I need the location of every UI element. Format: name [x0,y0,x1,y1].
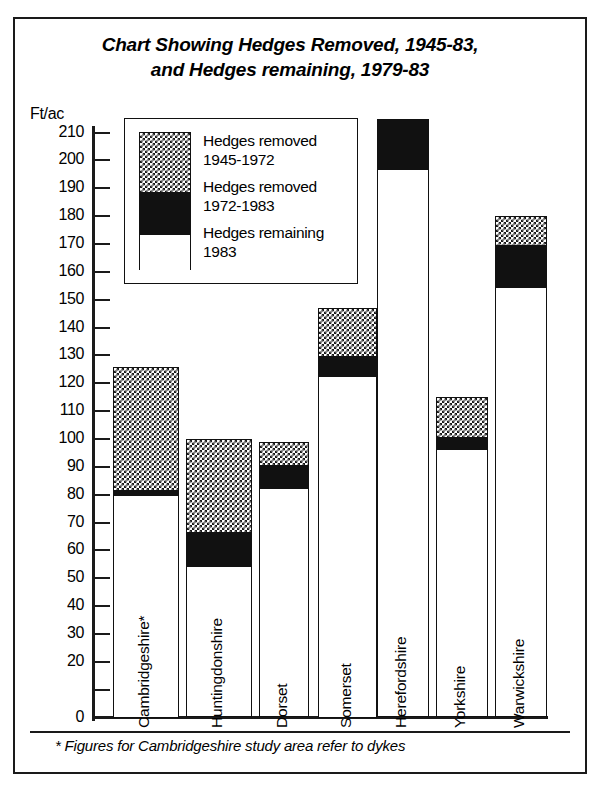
y-axis-tick [95,327,110,329]
y-axis-tick-label: 180 [28,206,84,224]
bar-somerset [318,308,377,718]
legend-label-line-1: Hedges removed [203,178,317,195]
chart-title-line-1: Chart Showing Hedges Removed, 1945-83, [102,34,479,55]
y-axis-tick [95,633,110,635]
y-axis-tick-label: 110 [28,401,84,419]
y-axis-tick [95,577,110,579]
y-axis-tick-label: 80 [28,485,84,503]
chart-title-line-2: and Hedges remaining, 1979-83 [40,57,540,82]
y-axis-tick-label: 210 [28,123,84,141]
y-axis-tick-label: 50 [28,568,84,586]
bar-herefordshire [377,119,429,718]
y-axis-tick [95,494,110,496]
x-axis-category-label: Herefordshire [392,636,410,727]
legend-swatch-column [139,132,191,270]
y-axis-tick [95,522,110,524]
y-axis-tick [95,382,110,384]
footnote-text: * Figures for Cambridgeshire study area … [55,737,555,754]
legend-label-line-1: Hedges remaining [203,224,324,241]
y-axis-tick [95,215,110,217]
legend-label-line-2: 1983 [203,243,236,260]
y-axis-tick [95,187,110,189]
bar-segment-removed-1945-1972 [187,440,251,532]
legend-swatch-checkered [140,133,190,192]
y-axis-tick [95,271,110,273]
legend-swatch-black [140,192,190,235]
y-axis-tick [95,299,110,301]
y-axis-tick [95,243,110,245]
y-axis-tick-label: 160 [28,262,84,280]
bar-dorset [259,442,309,718]
bar-segment-removed-1972-1983 [437,437,487,450]
y-axis-tick [95,438,110,440]
chart-page: Chart Showing Hedges Removed, 1945-83, a… [0,0,601,791]
bar-segment-removed-1972-1983 [378,120,428,170]
legend-label-removed-1972-1983: Hedges removed1972-1983 [203,177,353,215]
legend-label-line-1: Hedges removed [203,132,317,149]
y-axis-tick-label: 120 [28,373,84,391]
bar-segment-removed-1945-1972 [114,368,178,491]
y-axis-tick [95,689,110,691]
chart-title: Chart Showing Hedges Removed, 1945-83, a… [40,32,540,82]
legend-label-removed-1945-1972: Hedges removed1945-1972 [203,131,353,169]
chart-legend: Hedges removed1945-1972 Hedges removed19… [124,118,358,284]
y-axis-tick [95,410,110,412]
y-axis-tick-label: 0 [28,708,84,726]
y-axis-tick [95,549,110,551]
x-axis-category-label: Yorkshire [451,665,469,727]
bar-segment-removed-1972-1983 [187,532,251,567]
y-axis-tick [95,159,110,161]
legend-label-remaining-1983: Hedges remaining1983 [203,223,353,261]
x-axis-category-label: Somerset [337,663,355,728]
bar-segment-removed-1945-1972 [260,443,308,465]
legend-label-line-2: 1972-1983 [203,197,274,214]
legend-swatch-white [140,235,190,271]
y-axis-tick [95,354,110,356]
footnote-divider [30,731,570,733]
y-axis-tick-label: 40 [28,596,84,614]
legend-label-line-2: 1945-1972 [203,151,274,168]
y-axis-tick [95,717,110,719]
bar-segment-removed-1972-1983 [496,245,546,288]
y-axis-tick [95,466,110,468]
y-axis-tick-label: 150 [28,290,84,308]
x-axis-category-label: Cambridgeshire* [135,615,153,727]
y-axis-tick [95,132,110,134]
bar-segment-removed-1972-1983 [260,465,308,489]
y-axis-tick-label: 200 [28,150,84,168]
y-axis-tick-label: 100 [28,429,84,447]
y-axis-tick-label: 170 [28,234,84,252]
y-axis-tick-label: 60 [28,540,84,558]
y-axis-tick-label: 30 [28,624,84,642]
bar-segment-removed-1945-1972 [319,309,376,356]
bar-segment-removed-1945-1972 [437,398,487,437]
x-axis-category-label: Huntingdonshire [208,618,226,728]
bar-segment-removed-1972-1983 [319,356,376,377]
bar-segment-remaining-1983 [260,489,308,717]
y-axis-tick [95,605,110,607]
y-axis-tick-label: 20 [28,652,84,670]
y-axis-tick [95,661,110,663]
y-axis-tick-label: 190 [28,178,84,196]
bar-segment-removed-1945-1972 [496,217,546,245]
x-axis-category-label: Dorset [273,683,291,727]
y-axis-tick-label: 70 [28,513,84,531]
y-axis-tick-label: 140 [28,318,84,336]
y-axis-unit-label: Ft/ac [30,105,64,123]
bar-segment-remaining-1983 [378,170,428,717]
y-axis-tick-label: 130 [28,345,84,363]
y-axis-tick-label: 90 [28,457,84,475]
x-axis-category-label: Warwickshire [510,638,528,727]
